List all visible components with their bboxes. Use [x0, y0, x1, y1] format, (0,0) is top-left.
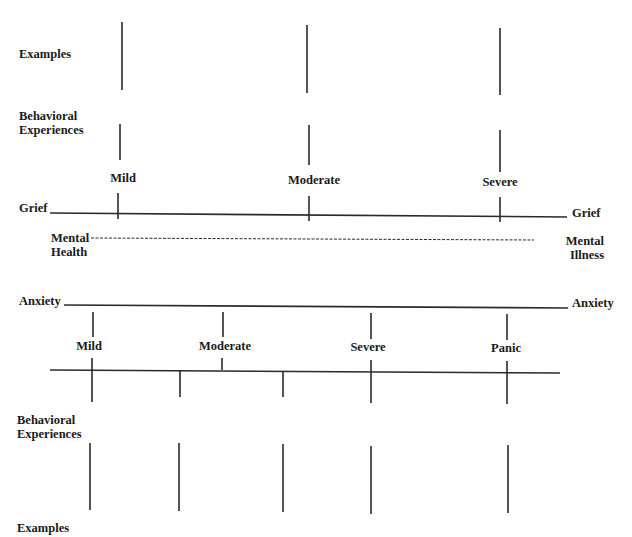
mental-illness-line2: Illness — [534, 248, 604, 262]
mental-illness-label: Mental Illness — [534, 234, 604, 262]
grief-behavioral-experiences-label: Behavioral Experiences — [19, 109, 119, 137]
anxiety-level-severe: Severe — [350, 340, 385, 354]
grief-behavioral-line2: Experiences — [19, 123, 119, 137]
anxiety-level-mild: Mild — [76, 339, 102, 353]
grief-level-moderate: Moderate — [288, 173, 340, 187]
grief-axis-label-left: Grief — [19, 201, 47, 215]
anxiety-axis-top — [64, 305, 568, 308]
mental-health-line1: Mental — [51, 231, 151, 245]
anxiety-level-moderate: Moderate — [199, 339, 251, 353]
diagram-lines — [0, 0, 632, 537]
anxiety-level-panic: Panic — [491, 341, 521, 355]
anxiety-behavioral-line1: Behavioral — [17, 413, 117, 427]
mental-illness-line1: Mental — [534, 234, 604, 248]
anxiety-behavioral-experiences-label: Behavioral Experiences — [17, 413, 117, 441]
anxiety-axis-bottom — [50, 370, 560, 373]
anxiety-examples-label: Examples — [17, 521, 69, 535]
mental-health-line2: Health — [51, 245, 151, 259]
grief-behavioral-line1: Behavioral — [19, 109, 119, 123]
anxiety-axis-label-right: Anxiety — [572, 296, 614, 310]
anxiety-axis-label-left: Anxiety — [19, 294, 61, 308]
mental-health-label: Mental Health — [51, 231, 151, 259]
mental-health-continuum — [91, 238, 534, 240]
grief-level-severe: Severe — [482, 175, 517, 189]
grief-examples-label: Examples — [19, 47, 71, 61]
grief-axis-label-right: Grief — [572, 206, 600, 220]
grief-level-mild: Mild — [110, 171, 136, 185]
anxiety-behavioral-line2: Experiences — [17, 427, 117, 441]
